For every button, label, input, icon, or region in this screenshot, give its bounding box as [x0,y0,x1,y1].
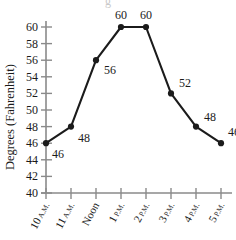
x-tick-label: 5P.M. [206,200,226,224]
x-tick-label-meridiem: P.M. [137,201,151,217]
data-point-label: 56 [104,63,116,77]
y-tick-label: 42 [26,169,38,183]
axes [41,21,232,193]
x-tick-label-meridiem: A.M. [61,201,76,219]
x-tick-label-text: 2P.M. [131,200,151,224]
y-axis-title: Degrees (Fahrenheit) [3,64,17,170]
x-tick-label: Noon [79,200,101,228]
y-tick-label: 56 [26,53,38,67]
x-tick-label-meridiem: P.M. [187,201,201,217]
data-point-marker [168,90,174,96]
x-tick-label: 4P.M. [181,200,201,224]
x-tick-label: 1P.M. [106,200,126,224]
y-tick-label: 50 [26,103,38,117]
data-point-label: 48 [78,131,90,145]
data-point-marker [43,140,49,146]
y-tick-label: 60 [26,20,38,34]
y-axis-title-text: Degrees (Fahrenheit) [3,64,17,170]
point-label-group: 4648566060524846 [52,8,236,161]
y-tick-label: 58 [26,37,38,51]
y-tick-label: 46 [26,136,38,150]
y-tick-label: 54 [26,70,38,84]
x-tick-label-meridiem: P.M. [212,201,226,217]
x-tick-label: 3P.M. [156,200,176,224]
y-tick-label: 40 [26,186,38,200]
line-chart: g Degrees (Fahrenheit) 60585654525048464… [0,0,236,240]
x-tick-label-meridiem: A.M. [36,201,51,219]
data-point-label: 46 [228,125,236,139]
data-point-marker [143,24,149,30]
data-point-label: 60 [115,8,127,22]
y-tick-label: 48 [26,120,38,134]
data-point-marker [193,124,199,130]
x-tick-label-text: 3P.M. [156,200,176,224]
x-tick-label-meridiem: P.M. [162,201,176,217]
data-point-label: 52 [179,76,191,90]
x-tick-label: 2P.M. [131,200,151,224]
data-marker-group [43,24,224,146]
data-point-label: 46 [52,147,64,161]
y-tick-label: 52 [26,86,38,100]
x-tick-label-text: 10A.M. [27,200,51,231]
x-tick-label-group: 10A.M.11A.M.Noon1P.M.2P.M.3P.M.4P.M.5P.M… [27,200,226,231]
data-point-marker [93,57,99,63]
data-point-marker [118,24,124,30]
data-point-marker [68,124,74,130]
data-point-label: 48 [204,110,216,124]
x-tick-label-text: 11A.M. [53,200,77,230]
title-ghost-glyph: g [105,0,111,8]
y-tick-group: 6058565452504846444240 [26,20,52,200]
data-point-marker [218,140,224,146]
y-tick-label: 44 [26,153,38,167]
data-point-label: 60 [140,8,152,22]
x-tick-label-text: 5P.M. [206,200,226,224]
x-tick-label: 10A.M. [27,200,51,231]
chart-canvas: g Degrees (Fahrenheit) 60585654525048464… [0,0,236,240]
x-tick-label-text: 4P.M. [181,200,201,224]
cropped-title-remnant: g [105,0,111,8]
x-tick-label: 11A.M. [53,200,77,230]
x-tick-label-meridiem: P.M. [112,201,126,217]
x-tick-label-text: Noon [79,200,101,228]
x-tick-label-text: 1P.M. [106,200,126,224]
